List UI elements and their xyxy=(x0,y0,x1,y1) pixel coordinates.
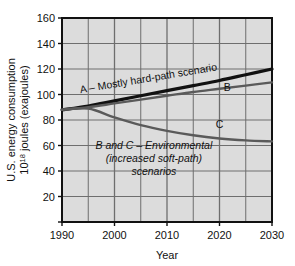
y-tick-label: 20 xyxy=(43,191,55,203)
x-tick-label: 2000 xyxy=(102,229,126,241)
y-axis-title: U.S. energy consumption 1018 joules (exa… xyxy=(5,58,30,182)
y-axis-title-unit-rest: joules (exajoules) xyxy=(18,65,30,154)
x-axis-title: Year xyxy=(156,249,179,261)
y-tick-label: 160 xyxy=(37,12,55,24)
y-tick-label: 140 xyxy=(37,38,55,50)
x-tick-label: 2020 xyxy=(207,229,231,241)
y-tick-label: 120 xyxy=(37,63,55,75)
y-tick-label: 60 xyxy=(43,140,55,152)
chart-figure: 20406080100120140160 1990200020102020203… xyxy=(0,0,295,266)
y-axis-title-unit-exponent: 18 xyxy=(18,154,27,162)
series-c-annotation: C xyxy=(216,118,224,130)
y-tick-label: 100 xyxy=(37,89,55,101)
y-axis-title-unit-base: 10 xyxy=(18,162,30,174)
environmental-note-line2: (increased soft-path) xyxy=(106,152,202,164)
energy-consumption-line-chart: 20406080100120140160 1990200020102020203… xyxy=(0,0,295,266)
series-b-annotation: B xyxy=(224,81,231,93)
x-tick-label: 2030 xyxy=(260,229,284,241)
x-tick-label: 1990 xyxy=(50,229,74,241)
environmental-note-line3: scenarios xyxy=(131,165,177,177)
y-tick-label: 40 xyxy=(43,165,55,177)
environmental-note-line1: B and C – Environmental xyxy=(96,139,213,151)
y-tick-label: 80 xyxy=(43,114,55,126)
y-axis-title-line1: U.S. energy consumption xyxy=(5,58,17,182)
x-tick-label: 2010 xyxy=(155,229,179,241)
